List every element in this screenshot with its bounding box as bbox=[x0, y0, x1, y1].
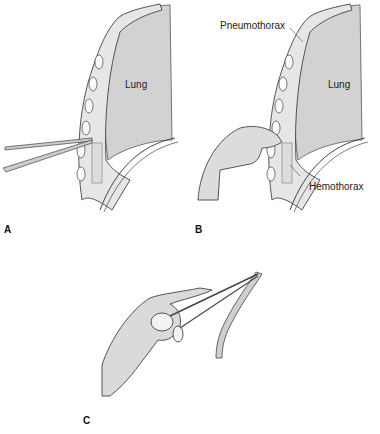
panel-c: C bbox=[80, 270, 280, 434]
lung-label: Lung bbox=[125, 79, 147, 90]
panel-label-c: C bbox=[83, 415, 90, 426]
chest-wall-forceps-illustration bbox=[0, 0, 190, 230]
lung-label: Lung bbox=[328, 79, 350, 90]
hemothorax-label: Hemothorax bbox=[309, 181, 363, 192]
clamp-chest-tube-illustration bbox=[80, 270, 280, 400]
panel-a: Lung A bbox=[0, 0, 190, 240]
panel-b: Lung Pneumothorax Hemothorax B bbox=[190, 0, 380, 240]
panel-label-b: B bbox=[195, 224, 202, 235]
chest-wall-finger-illustration bbox=[190, 0, 380, 230]
panel-label-a: A bbox=[4, 224, 11, 235]
pneumothorax-label: Pneumothorax bbox=[220, 20, 285, 31]
